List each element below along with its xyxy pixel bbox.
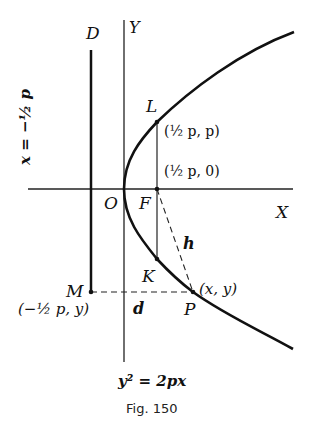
label-D: D [86, 25, 100, 42]
point-F [155, 187, 160, 192]
label-L: L [146, 98, 157, 115]
label-P: P [184, 301, 195, 318]
coord-F: (½ p, 0) [164, 164, 220, 178]
label-Y: Y [129, 20, 140, 36]
point-K [155, 257, 160, 262]
coord-M: (−½ p, y) [18, 302, 89, 317]
label-h: h [183, 236, 195, 252]
coord-L: (½ p, p) [164, 124, 220, 138]
label-M: M [66, 283, 83, 300]
point-L [155, 120, 160, 125]
label-d: d [133, 301, 144, 317]
point-M [89, 290, 94, 295]
coord-P: (x, y) [199, 282, 237, 297]
parabola-diagram [0, 0, 312, 425]
figure-caption: Fig. 150 [126, 401, 177, 416]
label-O: O [104, 195, 118, 212]
directrix-equation: x = −½ p [18, 89, 33, 165]
parabola-equation: y² = 2px [118, 374, 186, 389]
label-X: X [276, 204, 288, 221]
label-K: K [142, 268, 155, 285]
label-F: F [139, 195, 151, 212]
parabola-curve [124, 32, 294, 349]
point-P [191, 290, 196, 295]
